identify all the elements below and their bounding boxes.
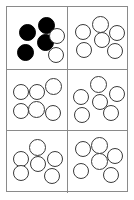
open-circle bbox=[47, 151, 63, 167]
open-circle bbox=[45, 78, 62, 95]
panel-5-bottom-left bbox=[7, 131, 67, 193]
panel-1-top-left bbox=[7, 7, 67, 69]
filled-circle bbox=[17, 44, 34, 61]
open-circle bbox=[92, 16, 109, 33]
figure-canvas bbox=[0, 0, 134, 200]
filled-circle bbox=[19, 24, 36, 41]
grid-row bbox=[7, 69, 127, 131]
open-circle bbox=[109, 25, 125, 41]
panel-3-middle-left bbox=[7, 70, 67, 130]
open-circle bbox=[48, 47, 64, 63]
open-circle bbox=[107, 43, 123, 59]
open-circle bbox=[74, 107, 90, 123]
open-circle bbox=[90, 76, 107, 93]
open-circle bbox=[103, 105, 119, 121]
open-circle bbox=[76, 42, 92, 58]
panel-4-middle-right bbox=[67, 70, 127, 130]
open-circle bbox=[44, 168, 60, 184]
panel-2-top-right bbox=[67, 7, 127, 69]
open-circle bbox=[13, 84, 29, 100]
open-circle bbox=[109, 86, 125, 102]
open-circle bbox=[75, 24, 91, 40]
open-circle bbox=[73, 163, 89, 179]
open-circle bbox=[13, 103, 29, 119]
open-circle bbox=[28, 101, 45, 118]
open-circle bbox=[13, 165, 29, 181]
panel-grid bbox=[6, 6, 128, 192]
open-circle bbox=[107, 148, 123, 164]
open-circle bbox=[103, 167, 119, 183]
open-circle bbox=[29, 139, 46, 156]
open-circle bbox=[73, 89, 89, 105]
open-circle bbox=[91, 137, 108, 154]
grid-row bbox=[7, 131, 127, 193]
panel-6-bottom-right bbox=[67, 131, 127, 193]
open-circle bbox=[29, 84, 45, 100]
open-circle bbox=[30, 156, 46, 172]
open-circle bbox=[45, 105, 61, 121]
grid-row bbox=[7, 7, 127, 69]
open-circle bbox=[75, 141, 91, 157]
open-circle bbox=[49, 28, 65, 44]
